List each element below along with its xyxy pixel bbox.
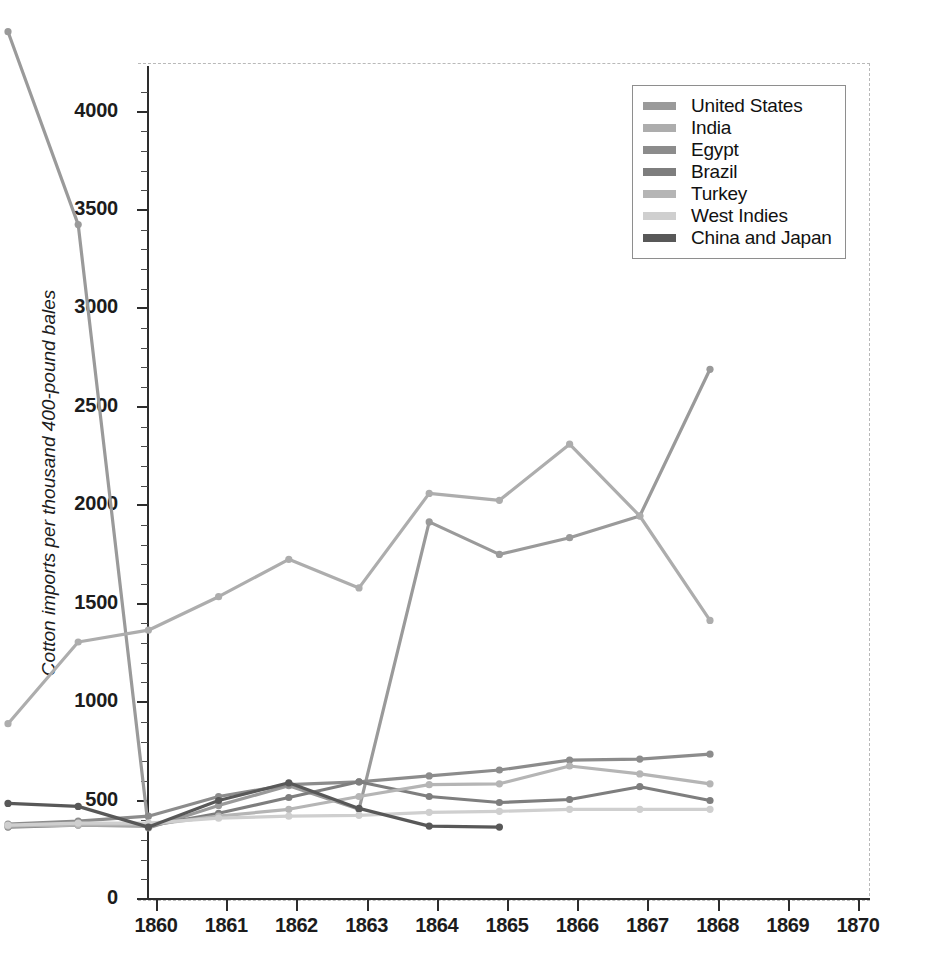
legend-item-label: China and Japan — [691, 227, 832, 249]
series-marker — [706, 806, 713, 813]
x-tick-label: 1860 — [116, 914, 196, 937]
chart-figure: 40003500300025002000150010005000 1860186… — [0, 0, 934, 963]
series-marker — [706, 780, 713, 787]
series-marker — [706, 617, 713, 624]
x-tick-label: 1864 — [397, 914, 477, 937]
x-tick-label: 1865 — [467, 914, 547, 937]
legend-item-label: Turkey — [691, 183, 747, 205]
series-marker — [496, 824, 503, 831]
series-marker — [285, 794, 292, 801]
series-marker — [215, 815, 222, 822]
x-tick-label: 1867 — [607, 914, 687, 937]
x-tick-label: 1866 — [537, 914, 617, 937]
series-marker — [215, 797, 222, 804]
series-marker — [75, 820, 82, 827]
series-marker — [566, 441, 573, 448]
legend-item[interactable]: Brazil — [643, 161, 835, 183]
series-marker — [285, 556, 292, 563]
series-marker — [566, 796, 573, 803]
series-marker — [355, 812, 362, 819]
y-tick-minor — [141, 840, 148, 841]
chart-lines — [0, 0, 715, 830]
series-marker — [285, 779, 292, 786]
legend-swatch-icon — [643, 102, 676, 110]
series-marker — [636, 783, 643, 790]
series-marker — [4, 800, 11, 807]
series-marker — [426, 518, 433, 525]
series-marker — [426, 793, 433, 800]
x-tick-major — [367, 898, 369, 911]
series-marker — [636, 806, 643, 813]
series-marker — [355, 778, 362, 785]
series-marker — [426, 772, 433, 779]
series-line — [8, 444, 710, 724]
x-tick-label: 1861 — [186, 914, 266, 937]
legend-swatch-icon — [643, 146, 676, 154]
series-marker — [426, 781, 433, 788]
x-tick-label: 1868 — [678, 914, 758, 937]
series-marker — [285, 813, 292, 820]
legend-item[interactable]: Turkey — [643, 183, 835, 205]
series-marker — [636, 770, 643, 777]
y-tick-label: 0 — [58, 886, 118, 909]
x-tick-major — [437, 898, 439, 911]
series-marker — [355, 793, 362, 800]
legend-item-label: Brazil — [691, 161, 737, 183]
series-marker — [145, 824, 152, 831]
x-tick-major — [156, 898, 158, 911]
legend-item[interactable]: West Indies — [643, 205, 835, 227]
series-marker — [75, 221, 82, 228]
series-marker — [706, 797, 713, 804]
series-marker — [355, 584, 362, 591]
legend-swatch-icon — [643, 190, 676, 198]
legend-swatch-icon — [643, 234, 676, 242]
series-marker — [426, 490, 433, 497]
legend-item-label: India — [691, 117, 731, 139]
series-marker — [355, 805, 362, 812]
series-marker — [566, 534, 573, 541]
series-marker — [706, 751, 713, 758]
x-tick-label: 1870 — [818, 914, 898, 937]
x-tick-label: 1863 — [327, 914, 407, 937]
x-tick-major — [577, 898, 579, 911]
series-marker — [496, 808, 503, 815]
series-marker — [496, 497, 503, 504]
x-tick-major — [647, 898, 649, 911]
series-marker — [145, 813, 152, 820]
series-marker — [215, 593, 222, 600]
series-marker — [566, 762, 573, 769]
x-tick-major — [296, 898, 298, 911]
legend-item-label: Egypt — [691, 139, 739, 161]
x-tick-major — [718, 898, 720, 911]
legend-item[interactable]: United States — [643, 95, 835, 117]
y-tick-major — [137, 898, 148, 900]
series-marker — [496, 799, 503, 806]
series-line — [8, 32, 710, 828]
series-marker — [285, 806, 292, 813]
series-marker — [145, 627, 152, 634]
chart-legend: United StatesIndiaEgyptBrazilTurkeyWest … — [632, 85, 846, 259]
series-marker — [496, 766, 503, 773]
series-marker — [566, 806, 573, 813]
series-marker — [4, 720, 11, 727]
legend-swatch-icon — [643, 168, 676, 176]
legend-item[interactable]: Egypt — [643, 139, 835, 161]
x-tick-major — [788, 898, 790, 911]
series-marker — [426, 823, 433, 830]
series-marker — [636, 512, 643, 519]
legend-item-label: United States — [691, 95, 802, 117]
series-marker — [426, 809, 433, 816]
y-tick-minor — [141, 860, 148, 861]
y-tick-minor — [141, 879, 148, 880]
x-tick-major — [507, 898, 509, 911]
series-marker — [496, 780, 503, 787]
series-marker — [496, 551, 503, 558]
x-tick-label: 1869 — [748, 914, 828, 937]
x-tick-major — [858, 898, 860, 911]
legend-item[interactable]: China and Japan — [643, 227, 835, 249]
series-marker — [4, 28, 11, 35]
legend-item-label: West Indies — [691, 205, 788, 227]
legend-swatch-icon — [643, 212, 676, 220]
legend-item[interactable]: India — [643, 117, 835, 139]
legend-swatch-icon — [643, 124, 676, 132]
